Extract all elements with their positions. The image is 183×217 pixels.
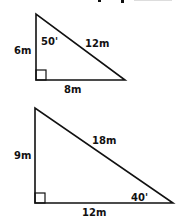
triangle-2-angle-label: 40' bbox=[131, 192, 148, 203]
triangle-1-top-angle-label: 50' bbox=[41, 36, 58, 47]
triangle-2-base-label: 12m bbox=[82, 207, 106, 217]
right-angle-marker-2 bbox=[35, 193, 45, 203]
triangles-diagram: 6m 50' 12m 8m 9m 18m 40' 12m bbox=[0, 0, 183, 217]
triangle-1-shape bbox=[36, 14, 125, 80]
triangle-2-left-side-label: 9m bbox=[14, 150, 31, 161]
cropped-header bbox=[98, 0, 172, 3]
triangle-1-left-side-label: 6m bbox=[14, 45, 31, 56]
triangle-2: 9m 18m 40' 12m bbox=[14, 108, 173, 217]
right-angle-marker-1 bbox=[36, 70, 46, 80]
triangle-2-hypotenuse-label: 18m bbox=[92, 135, 116, 146]
triangle-1-base-label: 8m bbox=[64, 84, 81, 95]
triangle-1-hypotenuse-label: 12m bbox=[85, 38, 109, 49]
triangle-2-shape bbox=[35, 108, 173, 203]
triangle-1: 6m 50' 12m 8m bbox=[14, 14, 125, 95]
